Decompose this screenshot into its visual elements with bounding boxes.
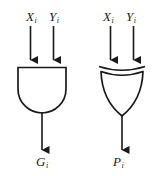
- xor-gate-output-label: Pi: [113, 155, 124, 170]
- xor-gate-input-y-label: Yi: [126, 10, 136, 25]
- diagram-canvas-svg: [0, 0, 162, 176]
- and-gate-input-x-label: Xi: [26, 10, 37, 25]
- and-gate-input-x-subscript: i: [34, 16, 37, 25]
- xor-gate-extra-arc: [99, 67, 145, 71]
- and-gate-input-y-subscript: i: [56, 16, 59, 25]
- logic-gate-diagram: Xi Yi Xi Yi Gi Pi: [0, 0, 162, 176]
- xor-gate-input-x-subscript: i: [111, 16, 114, 25]
- and-gate-body: [18, 68, 66, 114]
- and-gate-group: [18, 26, 66, 150]
- xor-gate-body: [101, 72, 143, 117]
- xor-gate-group: [99, 26, 145, 150]
- and-gate-output-subscript: i: [45, 161, 48, 170]
- xor-gate-input-x-label: Xi: [103, 10, 114, 25]
- xor-gate-input-y-subscript: i: [133, 16, 136, 25]
- and-gate-input-y-label: Yi: [49, 10, 59, 25]
- and-gate-output-label: Gi: [36, 155, 48, 170]
- xor-gate-output-subscript: i: [121, 161, 124, 170]
